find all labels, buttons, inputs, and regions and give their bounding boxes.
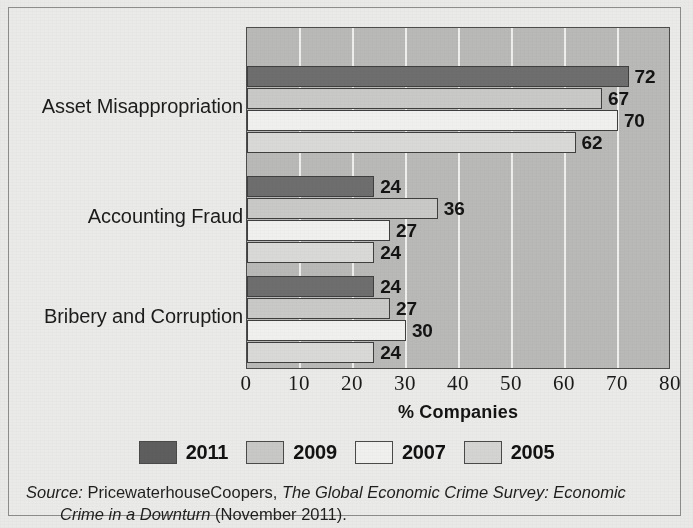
legend-item-2007: 2007 [355, 441, 446, 464]
data-label-2007-bribery-and-corruption: 30 [412, 320, 433, 342]
data-label-2007-accounting-fraud: 27 [396, 220, 417, 242]
bar-2007-accounting-fraud [247, 220, 390, 241]
legend-label-2007: 2007 [402, 441, 446, 464]
category-label-accounting-fraud: Accounting Fraud [0, 205, 243, 228]
bar-2005-asset-misappropriation [247, 132, 576, 153]
x-axis-tick-labels: 01020304050607080 [246, 371, 670, 399]
legend-item-2005: 2005 [464, 441, 555, 464]
legend-item-2011: 2011 [139, 441, 229, 464]
category-label-bribery-and-corruption: Bribery and Corruption [0, 305, 243, 328]
x-tick-20: 20 [341, 371, 363, 396]
source-line2: Crime in a Downturn (November 2011). [26, 503, 671, 525]
x-tick-80: 80 [659, 371, 681, 396]
data-label-2005-bribery-and-corruption: 24 [380, 342, 401, 364]
data-label-2005-asset-misappropriation: 62 [582, 132, 603, 154]
data-label-2011-asset-misappropriation: 72 [635, 66, 656, 88]
legend-swatch-2009 [246, 441, 284, 464]
source-prefix: Source: [26, 483, 83, 501]
figure-chart-economic-crime: Asset Misappropriation Accounting Fraud … [0, 0, 693, 528]
data-label-2009-accounting-fraud: 36 [444, 198, 465, 220]
data-label-2011-accounting-fraud: 24 [380, 176, 401, 198]
legend-label-2005: 2005 [511, 441, 555, 464]
bar-2009-asset-misappropriation [247, 88, 602, 109]
source-title-line1: The Global Economic Crime Survey: Econom… [282, 483, 626, 501]
x-tick-60: 60 [553, 371, 575, 396]
bar-2005-bribery-and-corruption [247, 342, 374, 363]
x-tick-30: 30 [394, 371, 416, 396]
x-tick-50: 50 [500, 371, 522, 396]
bar-2007-bribery-and-corruption [247, 320, 406, 341]
legend-swatch-2011 [139, 441, 177, 464]
legend-label-2011: 2011 [186, 441, 229, 464]
bar-2009-accounting-fraud [247, 198, 438, 219]
bar-2009-bribery-and-corruption [247, 298, 390, 319]
data-label-2011-bribery-and-corruption: 24 [380, 276, 401, 298]
x-tick-0: 0 [241, 371, 252, 396]
x-tick-40: 40 [447, 371, 469, 396]
source-note: Source: PricewaterhouseCoopers, The Glob… [26, 481, 671, 525]
bar-2011-asset-misappropriation [247, 66, 629, 87]
legend-label-2009: 2009 [293, 441, 337, 464]
x-axis-title: % Companies [246, 402, 670, 423]
data-label-2005-accounting-fraud: 24 [380, 242, 401, 264]
source-title-line2: Crime in a Downturn [60, 505, 210, 523]
category-label-asset-misappropriation: Asset Misappropriation [0, 95, 243, 118]
legend-item-2009: 2009 [246, 441, 337, 464]
source-organization: PricewaterhouseCoopers, [87, 483, 277, 501]
x-tick-10: 10 [288, 371, 310, 396]
source-date: (November 2011). [215, 505, 347, 523]
bar-2011-accounting-fraud [247, 176, 374, 197]
bar-2007-asset-misappropriation [247, 110, 618, 131]
legend-swatch-2007 [355, 441, 393, 464]
data-label-2009-asset-misappropriation: 67 [608, 88, 629, 110]
legend-swatch-2005 [464, 441, 502, 464]
bar-2011-bribery-and-corruption [247, 276, 374, 297]
chart-legend: 2011200920072005 [0, 441, 693, 464]
bar-2005-accounting-fraud [247, 242, 374, 263]
data-label-2007-asset-misappropriation: 70 [624, 110, 645, 132]
x-tick-70: 70 [606, 371, 628, 396]
data-label-2009-bribery-and-corruption: 27 [396, 298, 417, 320]
